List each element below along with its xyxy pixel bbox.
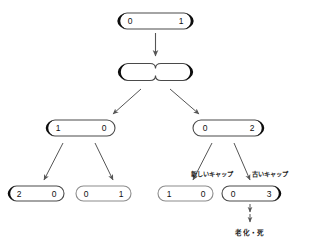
node-dividing — [118, 64, 193, 81]
node-mid-left-right-value: 0 — [102, 123, 107, 133]
node-mid-right-right-value: 2 — [250, 123, 255, 133]
node-leaf-2-right-value: 1 — [119, 189, 124, 199]
node-leaf-3-left-value: 1 — [167, 189, 172, 199]
arrow-mid-right-to-leaf-4 — [234, 143, 250, 180]
arrow-mid-left-to-leaf-2 — [95, 143, 113, 180]
node-root-right-value: 1 — [179, 16, 184, 26]
node-mid-right-left-value: 0 — [203, 123, 208, 133]
arrow-dividing-to-mid-right — [170, 89, 199, 114]
node-leaf-2-left-value: 0 — [84, 189, 89, 199]
node-mid-right: 0 2 — [193, 120, 264, 136]
diagram-canvas: 0 1 1 0 0 2 新しいキャップ 古いキャップ 2 0 — [0, 0, 309, 246]
node-leaf-4: 0 3 — [222, 186, 281, 201]
node-leaf-3: 1 0 — [158, 186, 213, 201]
node-leaf-1: 2 0 — [8, 186, 64, 201]
arrow-dividing-to-mid-left — [113, 89, 141, 114]
label-new-cap: 新しいキャップ — [191, 170, 234, 178]
label-old-cap: 古いキャップ — [252, 170, 289, 178]
node-leaf-1-left-value: 2 — [17, 189, 22, 199]
node-leaf-2: 0 1 — [76, 186, 131, 201]
node-mid-left: 1 0 — [46, 120, 115, 136]
label-outcome: 老化・死 — [234, 228, 265, 237]
node-mid-left-left-value: 1 — [56, 123, 61, 133]
cell-division-diagram: 0 1 1 0 0 2 新しいキャップ 古いキャップ 2 0 — [0, 0, 309, 246]
arrow-mid-left-to-leaf-1 — [44, 143, 63, 180]
node-leaf-1-right-value: 0 — [52, 189, 57, 199]
node-dividing-body — [120, 64, 192, 81]
node-leaf-4-right-value: 3 — [267, 189, 272, 199]
node-leaf-3-right-value: 0 — [201, 189, 206, 199]
node-leaf-4-left-value: 0 — [231, 189, 236, 199]
node-root-left-value: 0 — [128, 16, 133, 26]
node-root: 0 1 — [117, 13, 193, 29]
